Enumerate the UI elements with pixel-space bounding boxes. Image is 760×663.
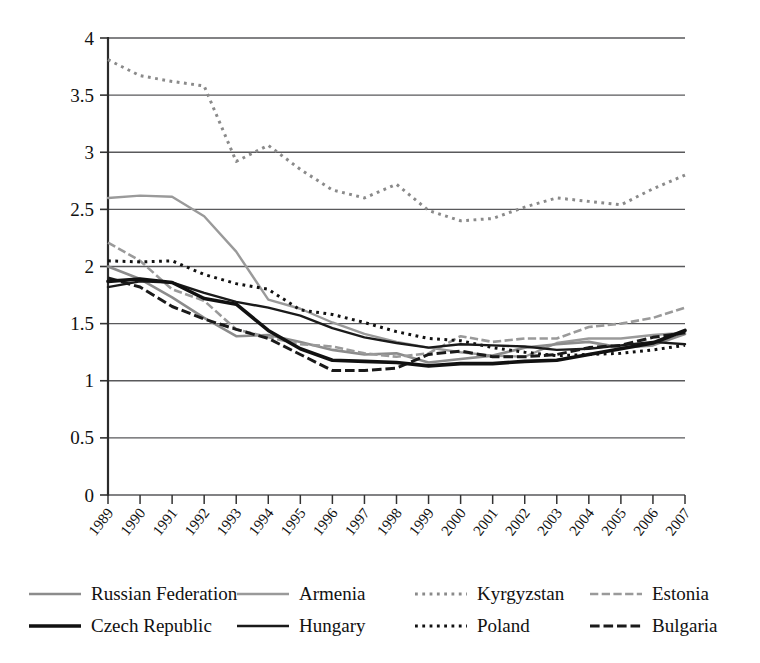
legend-swatch-russian-federation	[28, 587, 82, 601]
x-tick-label: 2006	[630, 505, 661, 539]
legend-label-poland: Poland	[477, 615, 530, 637]
y-tick-label: 2	[85, 256, 95, 277]
legend-swatch-czech-republic	[28, 619, 82, 633]
y-tick-label: 0	[85, 485, 95, 506]
y-tick-label: 3	[85, 142, 95, 163]
y-tick-label: 2.5	[70, 199, 94, 220]
x-tick-label: 2001	[470, 505, 501, 538]
legend-item-armenia[interactable]: Armenia	[236, 583, 414, 605]
x-tick-label: 1992	[181, 505, 212, 538]
legend-row-2: Czech Republic Hungary Poland Bulgaria	[28, 610, 740, 642]
line-chart: 00.511.522.533.5419891990199119921993199…	[0, 0, 760, 663]
legend-swatch-hungary	[236, 619, 290, 633]
x-tick-label: 2004	[566, 505, 597, 539]
x-tick-label: 1993	[214, 505, 245, 538]
x-tick-label: 1999	[406, 505, 437, 538]
legend-item-czech-republic[interactable]: Czech Republic	[28, 615, 236, 637]
chart-plot-area: 00.511.522.533.5419891990199119921993199…	[0, 0, 760, 663]
legend-label-bulgaria: Bulgaria	[652, 615, 717, 637]
x-tick-label: 1994	[246, 505, 277, 539]
legend-item-hungary[interactable]: Hungary	[236, 615, 414, 637]
legend-label-armenia: Armenia	[299, 583, 365, 605]
legend-label-kyrgyzstan: Kyrgyzstan	[477, 583, 564, 605]
x-tick-label: 2007	[662, 505, 693, 539]
series-line-kyrgyzstan	[108, 60, 685, 221]
legend-swatch-bulgaria	[589, 619, 643, 633]
y-tick-label: 4	[85, 28, 95, 49]
legend-swatch-poland	[414, 619, 468, 633]
legend-label-estonia: Estonia	[652, 583, 709, 605]
legend-label-czech-republic: Czech Republic	[91, 615, 212, 637]
legend-item-estonia[interactable]: Estonia	[589, 583, 739, 605]
legend-item-russian-federation[interactable]: Russian Federation	[28, 583, 236, 605]
x-tick-label: 1996	[310, 505, 341, 539]
x-tick-label: 1989	[85, 505, 116, 538]
x-tick-label: 2003	[534, 505, 565, 538]
x-tick-label: 2000	[438, 505, 469, 538]
legend-item-bulgaria[interactable]: Bulgaria	[589, 615, 739, 637]
chart-legend: Russian Federation Armenia Kyrgyzstan Es…	[28, 578, 740, 648]
legend-swatch-estonia	[589, 587, 643, 601]
x-tick-label: 1991	[149, 505, 180, 538]
x-tick-label: 2005	[598, 505, 629, 538]
x-tick-label: 1998	[374, 505, 405, 538]
legend-label-russian-federation: Russian Federation	[91, 583, 237, 605]
x-tick-label: 1997	[342, 505, 373, 539]
legend-swatch-armenia	[236, 587, 290, 601]
legend-row-1: Russian Federation Armenia Kyrgyzstan Es…	[28, 578, 740, 610]
x-tick-label: 1990	[117, 505, 148, 538]
legend-item-poland[interactable]: Poland	[414, 615, 589, 637]
legend-swatch-kyrgyzstan	[414, 587, 468, 601]
legend-item-kyrgyzstan[interactable]: Kyrgyzstan	[414, 583, 589, 605]
y-tick-label: 1.5	[70, 313, 94, 334]
legend-label-hungary: Hungary	[299, 615, 365, 637]
y-tick-label: 3.5	[70, 85, 94, 106]
x-tick-label: 2002	[502, 505, 533, 538]
y-tick-label: 1	[85, 370, 95, 391]
y-tick-label: 0.5	[70, 427, 94, 448]
x-tick-label: 1995	[278, 505, 309, 538]
